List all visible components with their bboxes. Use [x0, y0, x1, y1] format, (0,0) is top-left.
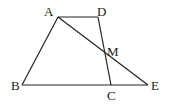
label-e: E — [151, 78, 159, 93]
label-d: D — [97, 4, 106, 19]
label-a: A — [44, 4, 54, 19]
segment-ab — [22, 17, 58, 85]
label-m: M — [107, 44, 119, 59]
segment-ae — [58, 17, 148, 85]
label-b: B — [11, 78, 20, 93]
label-c: C — [107, 88, 116, 103]
geometry-diagram: A D M B C E — [0, 0, 169, 105]
